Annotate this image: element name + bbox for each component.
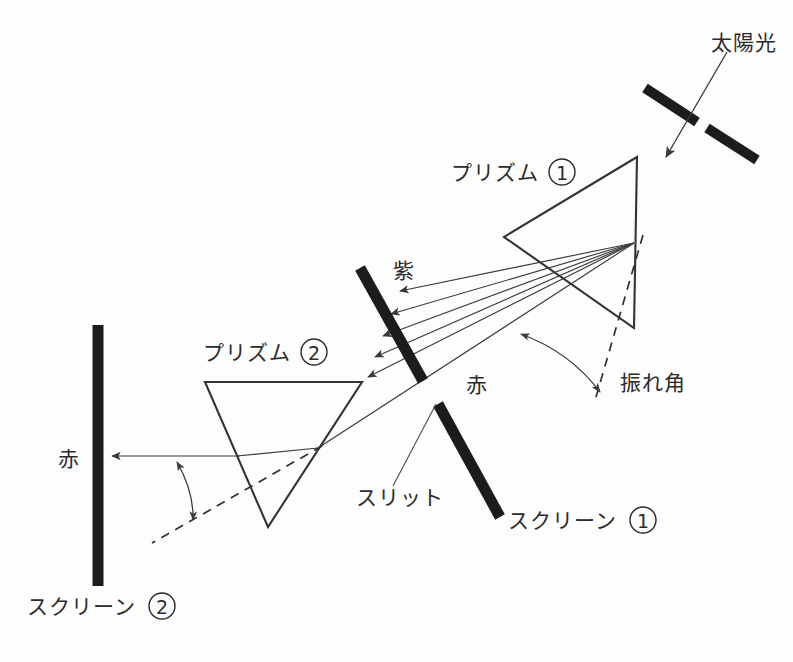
entrance-slit-bar-lower: [707, 128, 757, 160]
prism-2-number-badge: 2: [301, 339, 327, 365]
deflection-angle-arc-prism-1: [521, 334, 600, 392]
label-screen-1: スクリーン: [508, 509, 617, 533]
label-red-left: 赤: [58, 447, 80, 471]
screen-2-number-badge: 2: [149, 593, 175, 619]
dispersed-ray-1-violet: [400, 243, 634, 291]
label-violet: 紫: [393, 259, 415, 283]
prism-2-shape: [205, 382, 362, 527]
label-prism-1-number: 1: [556, 162, 568, 184]
label-prism-1: プリズム: [451, 161, 539, 185]
screen-1-bar-lower: [438, 404, 500, 517]
label-screen-1-number: 1: [637, 510, 649, 532]
label-screen-2: スクリーン: [27, 595, 136, 619]
label-prism-2-number: 2: [308, 342, 320, 364]
label-deflection-angle: 振れ角: [620, 371, 686, 395]
prism-2-extension-dashed-line: [152, 446, 322, 543]
optics-diagram-root: 太陽光 プリズム 1 紫 赤 振れ角 プリズム 2 赤 スリット スクリーン 1: [0, 0, 793, 662]
label-prism-2: プリズム: [203, 341, 291, 365]
deflection-angle-arc-prism-2: [177, 462, 193, 520]
label-slit: スリット: [356, 486, 444, 510]
prism-1-number-badge: 1: [549, 159, 575, 185]
label-screen-2-number: 2: [156, 596, 168, 618]
screen-1-number-badge: 1: [630, 507, 656, 533]
entrance-slit-group: [645, 88, 757, 160]
label-sunlight: 太陽光: [711, 31, 777, 55]
red-ray-path-group: [112, 243, 634, 456]
slit-leader-line: [393, 404, 436, 486]
optics-diagram-canvas: 太陽光 プリズム 1 紫 赤 振れ角 プリズム 2 赤 スリット スクリーン 1: [0, 0, 793, 662]
label-red-upper: 赤: [466, 373, 488, 397]
dispersed-ray-3: [383, 243, 634, 336]
